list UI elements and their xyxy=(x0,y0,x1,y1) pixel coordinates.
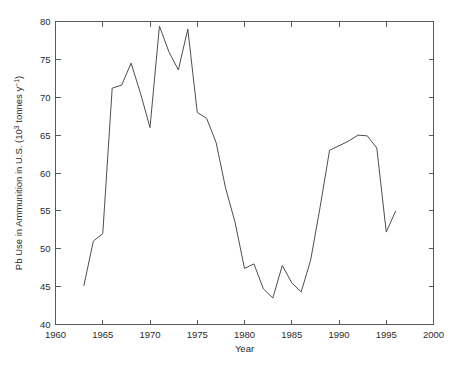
x-tick-label: 1965 xyxy=(92,329,113,340)
x-tick-label: 2000 xyxy=(423,329,444,340)
data-series-line[interactable] xyxy=(84,26,396,298)
y-tick-label: 75 xyxy=(40,54,51,65)
y-tick-label: 50 xyxy=(40,243,51,254)
y-tick-label: 55 xyxy=(40,205,51,216)
y-tick-label: 70 xyxy=(40,92,51,103)
x-tick-label: 1960 xyxy=(45,329,66,340)
x-tick-label: 1990 xyxy=(328,329,349,340)
x-tick-label: 1980 xyxy=(234,329,255,340)
y-tick-label: 65 xyxy=(40,130,51,141)
x-tick-label: 1975 xyxy=(187,329,208,340)
chart-figure: 1960196519701975198019851990199520004045… xyxy=(0,0,461,372)
plot-border xyxy=(56,22,434,325)
y-tick-label: 80 xyxy=(40,16,51,27)
line-chart-plot[interactable]: 1960196519701975198019851990199520004045… xyxy=(0,0,461,372)
y-tick-label: 40 xyxy=(40,319,51,330)
x-tick-label: 1995 xyxy=(376,329,397,340)
y-tick-label: 60 xyxy=(40,168,51,179)
y-axis-title: Pb Use in Ammunition in U.S. (103 tonnes… xyxy=(13,76,25,270)
y-tick-label: 45 xyxy=(40,281,51,292)
x-tick-label: 1985 xyxy=(281,329,302,340)
x-tick-label: 1970 xyxy=(139,329,160,340)
x-axis-title: Year xyxy=(235,343,254,354)
